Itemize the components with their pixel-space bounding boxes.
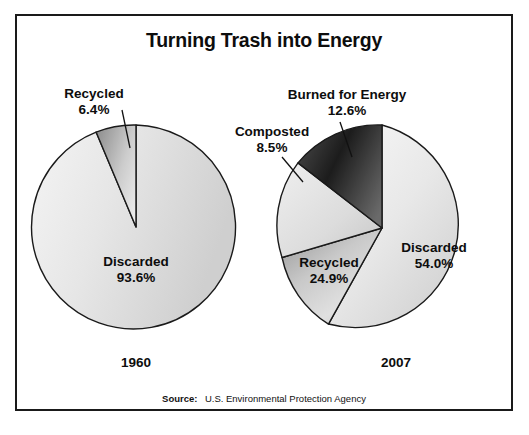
callout-label-recycled-1960: Recycled <box>64 86 123 101</box>
callout-label-composted-2007: Composted <box>235 124 309 139</box>
slice-value-recycled-2007: 24.9% <box>310 271 348 286</box>
page-bottom-strip <box>0 416 529 435</box>
slice-value-discarded-2007: 54.0% <box>415 256 453 271</box>
slice-label-discarded-1960: Discarded <box>103 254 168 269</box>
year-label-2007: 2007 <box>381 355 411 370</box>
slice-value-discarded-1960: 93.6% <box>117 270 155 285</box>
pie-chart-1960: Discarded 93.6% Recycled 6.4% 1960 <box>32 86 236 370</box>
source-line: Source: U.S. Environmental Protection Ag… <box>162 388 366 405</box>
page-title: Turning Trash into Energy <box>146 29 383 51</box>
pie-charts-figure: Turning Trash into Energy Discarded 93.6… <box>0 0 529 435</box>
source-label: Source: <box>162 393 197 404</box>
slice-label-discarded-2007: Discarded <box>401 240 466 255</box>
callout-value-composted-2007: 8.5% <box>257 140 288 155</box>
source-value: U.S. Environmental Protection Agency <box>205 393 366 404</box>
pie-chart-2007: Discarded 54.0% Recycled 24.9% Composted… <box>235 87 467 370</box>
callout-label-burned-2007: Burned for Energy <box>288 87 407 102</box>
callout-value-burned-2007: 12.6% <box>328 103 366 118</box>
chart-page: Turning Trash into Energy Discarded 93.6… <box>0 0 529 435</box>
callout-value-recycled-1960: 6.4% <box>79 102 110 117</box>
slice-label-recycled-2007: Recycled <box>299 255 358 270</box>
year-label-1960: 1960 <box>121 355 151 370</box>
